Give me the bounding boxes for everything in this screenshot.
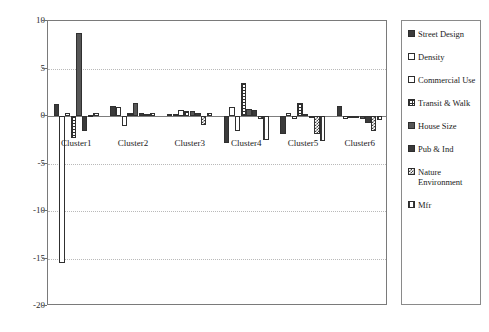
bar-cluster2-density <box>116 107 121 116</box>
legend-swatch-icon <box>408 168 415 175</box>
legend-item-label: Nature Environment <box>418 167 476 187</box>
bar-cluster2-nature-environment <box>144 114 149 116</box>
bar-cluster6-commercial-use <box>348 116 353 118</box>
y-tick-label-0: 0 <box>5 111 45 120</box>
y-tick-label-5: 5 <box>5 64 45 73</box>
bar-cluster5-density <box>286 113 291 116</box>
legend-item-label: Pub & Ind <box>418 144 453 154</box>
bar-cluster3-pub-ind <box>195 113 200 116</box>
chart-root: 1050-5-10-15-20 Cluster1Cluster2Cluster3… <box>0 0 489 332</box>
bar-cluster4-nature-environment <box>258 116 263 119</box>
y-axis: 1050-5-10-15-20 <box>0 20 47 305</box>
bar-cluster1-nature-environment <box>88 115 93 117</box>
x-axis-label-cluster3: Cluster3 <box>161 138 218 148</box>
legend-swatch-icon <box>408 201 415 208</box>
legend-item-house-size[interactable]: House Size <box>408 121 476 131</box>
bar-cluster6-density <box>343 116 348 119</box>
bar-cluster1-street-design <box>54 104 59 116</box>
bar-group-cluster1 <box>54 21 99 304</box>
bar-cluster5-mfr <box>320 116 325 141</box>
y-tick-label--5: -5 <box>5 159 45 168</box>
bar-cluster1-commercial-use <box>65 113 70 116</box>
legend-item-street-design[interactable]: Street Design <box>408 29 476 39</box>
x-axis-label-cluster2: Cluster2 <box>104 138 161 148</box>
bar-cluster4-pub-ind <box>252 110 257 116</box>
legend-item-label: Commercial Use <box>418 75 475 85</box>
legend-swatch-icon <box>408 122 415 129</box>
legend-swatch-icon <box>408 145 415 152</box>
legend-item-label: Transit & Walk <box>418 98 470 108</box>
bar-cluster6-house-size <box>360 116 365 119</box>
y-tick-label--15: -15 <box>5 254 45 263</box>
x-axis-label-cluster6: Cluster6 <box>331 138 388 148</box>
bar-cluster4-density <box>229 107 234 117</box>
bar-group-cluster2 <box>110 21 155 304</box>
y-tick-label-10: 10 <box>5 16 45 25</box>
legend-swatch-icon <box>408 99 415 106</box>
y-tick-label--20: -20 <box>5 301 45 310</box>
bar-cluster2-pub-ind <box>139 113 144 116</box>
legend-item-transit-walk[interactable]: Transit & Walk <box>408 98 476 108</box>
x-axis-label-cluster5: Cluster5 <box>274 138 331 148</box>
x-axis-label-cluster1: Cluster1 <box>48 138 105 148</box>
bar-cluster3-transit-walk <box>184 111 189 116</box>
legend-item-label: Density <box>418 52 444 62</box>
bar-cluster5-commercial-use <box>292 116 297 119</box>
legend-item-label: Street Design <box>418 29 464 39</box>
legend-item-density[interactable]: Density <box>408 52 476 62</box>
bar-cluster3-nature-environment <box>201 116 206 125</box>
bar-cluster3-mfr <box>207 113 212 116</box>
bar-cluster4-house-size <box>246 109 251 116</box>
bar-cluster3-street-design <box>167 114 172 116</box>
bar-cluster3-commercial-use <box>178 110 183 116</box>
bar-group-cluster5 <box>280 21 325 304</box>
bar-cluster5-street-design <box>280 116 285 134</box>
bar-cluster5-transit-walk <box>297 103 302 116</box>
bar-cluster1-transit-walk <box>71 116 76 138</box>
bar-cluster5-house-size <box>303 114 308 116</box>
y-tick-mark--20 <box>42 305 47 306</box>
bar-cluster4-mfr <box>263 116 268 140</box>
bar-cluster5-nature-environment <box>314 116 319 134</box>
bar-group-cluster4 <box>224 21 269 304</box>
bar-cluster3-density <box>173 114 178 116</box>
bar-cluster5-pub-ind <box>309 116 314 118</box>
legend-item-label: Mfr <box>418 200 431 210</box>
bar-cluster2-house-size <box>133 103 138 116</box>
legend-swatch-icon <box>408 30 415 37</box>
bar-cluster4-commercial-use <box>235 116 240 131</box>
bar-group-cluster3 <box>167 21 212 304</box>
bar-cluster3-house-size <box>190 111 195 116</box>
legend-item-nature-environment[interactable]: Nature Environment <box>408 167 476 187</box>
bar-cluster2-street-design <box>110 106 115 116</box>
bar-cluster4-transit-walk <box>241 83 246 116</box>
legend-item-pub-ind[interactable]: Pub & Ind <box>408 144 476 154</box>
bar-cluster1-mfr <box>93 113 98 116</box>
bar-cluster6-pub-ind <box>365 116 370 123</box>
bar-cluster6-mfr <box>377 116 382 120</box>
legend-item-commercial-use[interactable]: Commercial Use <box>408 75 476 85</box>
bar-cluster2-mfr <box>150 113 155 116</box>
chart-legend: Street DesignDensityCommercial UseTransi… <box>401 20 481 305</box>
bar-cluster1-pub-ind <box>82 116 87 131</box>
bar-cluster1-house-size <box>76 33 81 116</box>
y-tick-label--10: -10 <box>5 206 45 215</box>
legend-swatch-icon <box>408 76 415 83</box>
legend-item-mfr[interactable]: Mfr <box>408 200 476 210</box>
bar-cluster2-commercial-use <box>122 116 127 126</box>
plot-area: Cluster1Cluster2Cluster3Cluster4Cluster5… <box>47 20 387 305</box>
bar-group-cluster6 <box>337 21 382 304</box>
legend-item-label: House Size <box>418 121 456 131</box>
x-axis-label-cluster4: Cluster4 <box>218 138 275 148</box>
bar-cluster6-nature-environment <box>371 116 376 131</box>
legend-swatch-icon <box>408 53 415 60</box>
bar-cluster2-transit-walk <box>127 113 132 116</box>
bar-cluster6-transit-walk <box>354 116 359 118</box>
bar-cluster6-street-design <box>337 106 342 116</box>
